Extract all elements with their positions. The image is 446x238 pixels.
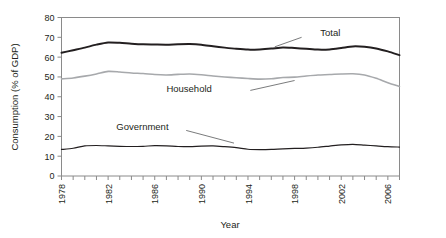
x-axis-title: Year bbox=[220, 219, 239, 230]
x-axis: 19781982198619901994199820022006 bbox=[57, 176, 399, 204]
y-tick-label: 0 bbox=[49, 171, 54, 181]
y-tick-label: 10 bbox=[44, 152, 54, 162]
y-tick-label: 60 bbox=[44, 53, 54, 63]
x-tick-label: 1982 bbox=[104, 184, 114, 204]
plot-frame bbox=[62, 18, 400, 177]
series-label-government: Government bbox=[116, 121, 169, 132]
y-tick-label: 20 bbox=[44, 132, 54, 142]
x-tick-label: 1998 bbox=[290, 184, 300, 204]
y-axis-title: Consumption (% of GDP) bbox=[9, 43, 20, 150]
line-chart: 01020304050607080 1978198219861990199419… bbox=[0, 0, 446, 238]
y-tick-label: 50 bbox=[44, 72, 54, 82]
x-tick-label: 1990 bbox=[197, 184, 207, 204]
y-tick-label: 80 bbox=[44, 13, 54, 23]
plot-area-border bbox=[62, 18, 400, 177]
series-label-total: Total bbox=[320, 27, 340, 38]
x-tick-label: 2002 bbox=[337, 184, 347, 204]
y-axis: 01020304050607080 bbox=[44, 13, 61, 182]
chart-container: 01020304050607080 1978198219861990199419… bbox=[0, 0, 446, 238]
y-tick-label: 40 bbox=[44, 92, 54, 102]
x-tick-label: 1986 bbox=[150, 184, 160, 204]
x-tick-label: 2006 bbox=[383, 184, 393, 204]
series-label-household: Household bbox=[166, 83, 211, 94]
x-tick-label: 1994 bbox=[244, 184, 254, 204]
y-tick-label: 70 bbox=[44, 33, 54, 43]
x-tick-label: 1978 bbox=[57, 184, 67, 204]
y-tick-label: 30 bbox=[44, 112, 54, 122]
